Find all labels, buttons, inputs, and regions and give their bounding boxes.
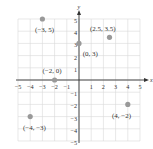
coordinate-plane: xy −5−4−3−2−11234554321−1−2−3−4−5 (−3, 5… — [0, 0, 153, 149]
point-label: (−2, 0) — [42, 67, 62, 75]
x-axis-label: x — [149, 77, 153, 83]
point-label: (−4, −3) — [23, 124, 47, 132]
point-label: (−3, 5) — [35, 26, 55, 34]
data-point — [107, 35, 112, 40]
y-tick-label: −3 — [70, 115, 77, 122]
x-tick-label: 3 — [114, 83, 117, 90]
x-tick-label: −3 — [39, 83, 46, 90]
point-label: (4, −2) — [112, 112, 132, 120]
y-tick-label: 1 — [74, 66, 77, 73]
x-tick-label: 2 — [102, 83, 105, 90]
point-label: (2.5, 3.5) — [90, 25, 116, 33]
axes: xy — [16, 4, 153, 143]
y-tick-label: 3 — [74, 41, 77, 48]
data-point — [52, 77, 57, 82]
point-label: (0, 3) — [83, 50, 99, 58]
x-tick-label: −4 — [27, 83, 34, 90]
y-axis-arrow-icon — [77, 10, 81, 15]
y-tick-label: 4 — [74, 29, 77, 36]
y-tick-label: −2 — [70, 102, 77, 109]
x-tick-label: −5 — [15, 83, 22, 90]
y-tick-label: 5 — [74, 17, 77, 24]
x-axis-arrow-icon — [144, 78, 149, 82]
data-point — [76, 41, 81, 46]
y-tick-label: 2 — [74, 54, 77, 61]
x-tick-label: 1 — [90, 83, 93, 90]
data-point — [40, 16, 45, 21]
data-point — [125, 102, 130, 107]
y-axis-label: y — [77, 4, 81, 10]
x-tick-label: −2 — [51, 83, 58, 90]
x-tick-label: 4 — [126, 83, 129, 90]
data-point — [28, 114, 33, 119]
y-tick-label: −1 — [70, 90, 77, 97]
y-tick-label: −5 — [70, 139, 77, 146]
x-tick-label: 5 — [138, 83, 141, 90]
x-tick-label: −1 — [64, 83, 71, 90]
y-tick-label: −4 — [70, 127, 77, 134]
